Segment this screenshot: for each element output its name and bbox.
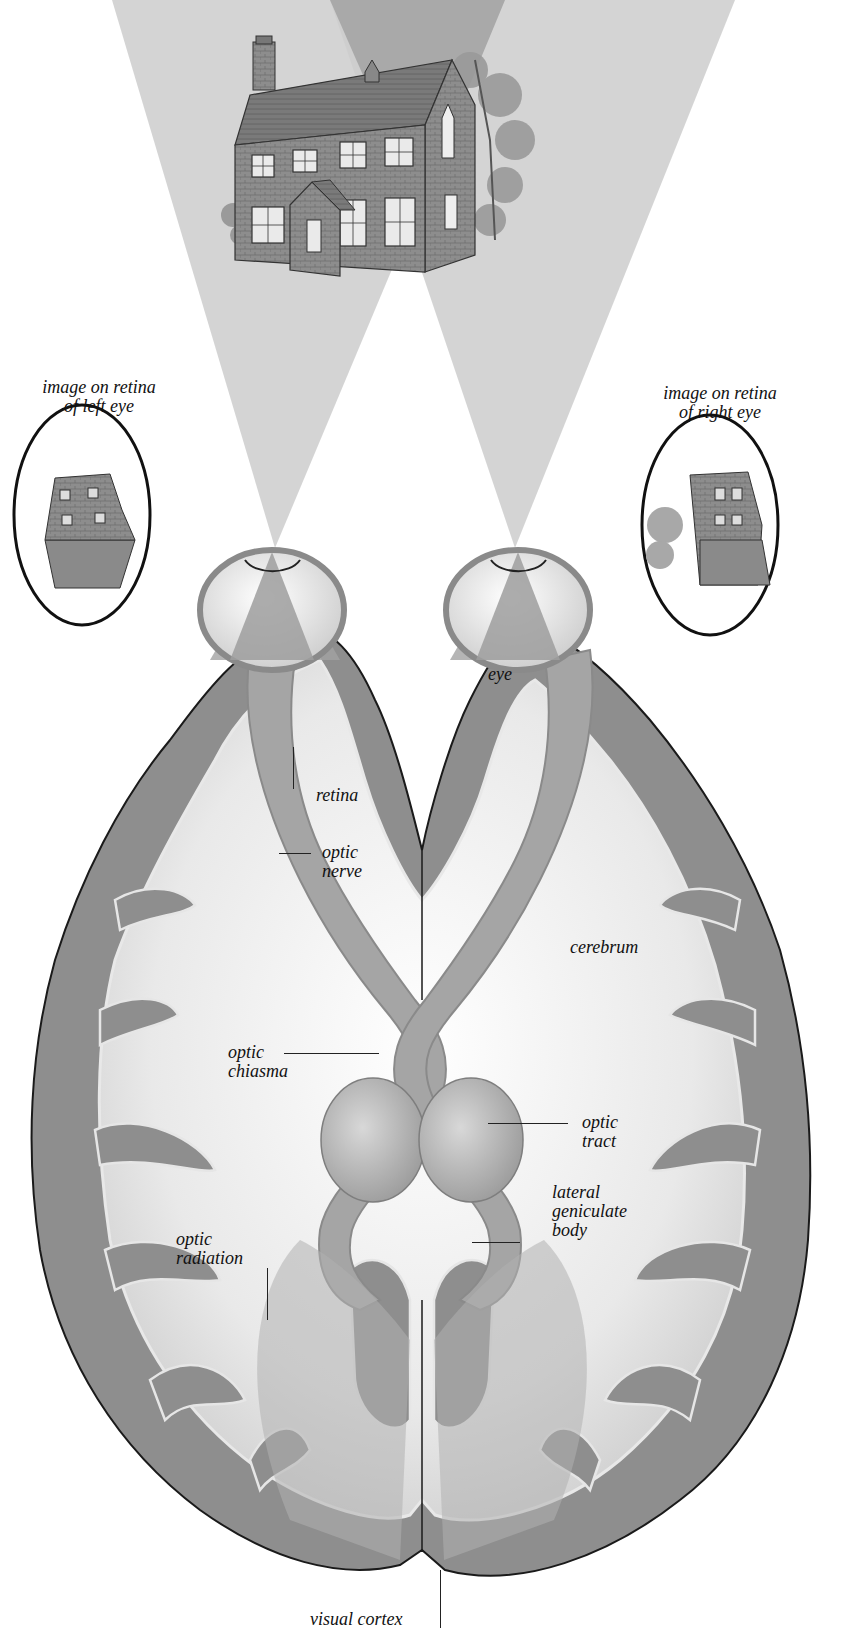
leader-optic-radiation [267,1268,268,1320]
label-left-retina-image-line1: image on retina [24,378,174,397]
right-retina-inset [642,415,778,635]
label-optic-chiasma-line1: optic [228,1043,288,1062]
leader-optic-nerve [279,853,311,854]
label-optic-tract-line1: optic [582,1113,618,1132]
label-left-retina-image: image on retina of left eye [24,378,174,416]
label-optic-tract-line2: tract [582,1132,618,1151]
label-lateral-geniculate-body: lateral geniculate body [552,1183,627,1240]
left-retina-inset [14,405,150,625]
leader-retina [293,747,294,789]
label-visual-cortex: visual cortex [310,1610,402,1629]
label-optic-chiasma-line2: chiasma [228,1062,288,1081]
label-right-retina-image-line2: of right eye [640,403,800,422]
diagram-artwork [0,0,844,1639]
leader-optic-chiasma [284,1053,379,1054]
label-optic-radiation: optic radiation [176,1230,243,1268]
label-right-retina-image: image on retina of right eye [640,384,800,422]
label-right-retina-image-line1: image on retina [640,384,800,403]
leader-lateral-geniculate-body [472,1242,520,1243]
label-eye: eye [488,665,512,684]
label-cerebrum: cerebrum [570,938,638,957]
leader-optic-tract [488,1123,568,1124]
label-optic-radiation-line1: optic [176,1230,243,1249]
label-lgb-line2: geniculate [552,1202,627,1221]
label-lgb-line3: body [552,1221,627,1240]
leader-visual-cortex [440,1570,441,1628]
label-lgb-line1: lateral [552,1183,627,1202]
label-optic-chiasma: optic chiasma [228,1043,288,1081]
label-optic-tract: optic tract [582,1113,618,1151]
label-retina: retina [316,786,358,805]
visual-pathway-diagram: image on retina of left eye image on ret… [0,0,844,1639]
label-optic-nerve-line2: nerve [322,862,362,881]
label-optic-nerve-line1: optic [322,843,362,862]
label-optic-nerve: optic nerve [322,843,362,881]
label-optic-radiation-line2: radiation [176,1249,243,1268]
label-left-retina-image-line2: of left eye [24,397,174,416]
